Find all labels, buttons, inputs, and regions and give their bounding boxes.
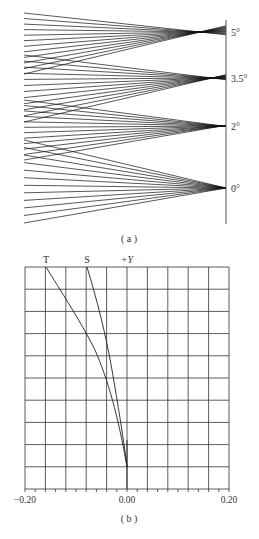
curve-label-t: T [43, 254, 49, 265]
figure: 5° 3.5° 2° 0° ( a ) T S +Y −0.20 0.00 0.… [0, 0, 259, 539]
x-tick-label-max: 0.20 [221, 495, 238, 505]
x-axis-ticks [25, 489, 229, 492]
field-angle-label-2: 2° [231, 121, 240, 132]
caption-b: ( b ) [121, 513, 138, 525]
caption-a: ( a ) [121, 233, 137, 245]
x-tick-label-zero: 0.00 [119, 495, 136, 505]
curve-label-s: S [84, 254, 90, 265]
x-tick-label-min: −0.20 [14, 495, 36, 505]
field-angle-label-3-5: 3.5° [231, 73, 248, 84]
axis-label-y: +Y [121, 254, 135, 265]
field-angle-label-0: 0° [231, 183, 240, 194]
field-angle-label-5: 5° [231, 27, 240, 38]
ray-fan-diagram [24, 13, 226, 223]
